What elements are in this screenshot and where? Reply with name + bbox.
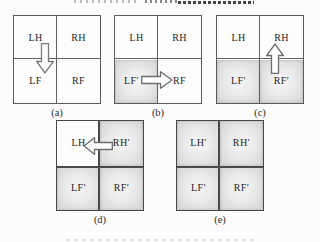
panel-e-square: LH′ RH′ LF′ RF′ [176, 120, 264, 211]
panel-b-square: LH RH LF′ RF [114, 15, 202, 104]
quadrant-label-rf: RF [173, 76, 186, 86]
quadrant-lh: LH [115, 16, 158, 60]
grid-vline [157, 16, 158, 103]
panel-b-caption: (b) [114, 107, 202, 118]
grid-hline [14, 58, 100, 59]
quadrant-label-lh: LH [231, 33, 245, 43]
quadrant-label-lf-prime: LF′ [124, 76, 139, 86]
quadrant-label-lf-prime: LF′ [191, 183, 206, 193]
panel-d: LH RH′ LF′ RF′ (d) [56, 120, 144, 225]
panel-e: LH′ RH′ LF′ RF′ (e) [176, 120, 264, 225]
panel-a-square: LH RH LF RF [13, 15, 101, 104]
panel-a: LH RH LF RF (a) [13, 15, 101, 118]
quadrant-label-rf: RF [72, 76, 85, 86]
quadrant-label-lh-prime: LH′ [190, 138, 207, 148]
up-arrow-icon [266, 43, 284, 74]
quadrant-label-rh: RH [71, 33, 86, 43]
grid-vline [259, 16, 260, 103]
quadrant-rf-prime: RF′ [100, 166, 143, 211]
down-arrow-icon [36, 43, 54, 74]
panel-a-caption: (a) [13, 107, 101, 118]
panel-d-square: LH RH′ LF′ RF′ [56, 120, 144, 211]
grid-hline [177, 166, 263, 168]
quadrant-label-rh-prime: RH′ [233, 138, 250, 148]
quadrant-lf-prime: LF′ [217, 60, 260, 104]
quadrant-rf-prime: RF′ [220, 166, 263, 211]
quadrant-rh: RH [57, 16, 100, 60]
quadrant-label-rf-prime: RF′ [274, 76, 290, 86]
panel-e-caption: (e) [176, 214, 264, 225]
grid-vline [56, 16, 57, 103]
quadrant-rh: RH [158, 16, 201, 60]
panel-d-caption: (d) [56, 214, 144, 225]
grid-hline [57, 166, 143, 168]
quadrant-label-rh: RH [274, 33, 289, 43]
clipped-text-bottom [66, 239, 256, 241]
panel-c-caption: (c) [216, 107, 304, 118]
panel-c-square: LH RH LF′ RF′ [216, 15, 304, 104]
quadrant-label-rf-prime: RF′ [234, 183, 250, 193]
quadrant-rh-prime: RH′ [220, 121, 263, 166]
clipped-text-top-left [74, 0, 136, 3]
left-arrow-icon [83, 137, 113, 155]
panel-b: LH RH LF′ RF (b) [114, 15, 202, 118]
clipped-text-top-mid [145, 0, 177, 3]
clipped-text-top-right [178, 1, 254, 4]
quadrant-label-lh: LH [28, 33, 42, 43]
quadrant-rf: RF [57, 60, 100, 104]
right-arrow-icon [141, 71, 173, 89]
grid-hline [115, 58, 201, 59]
quadrant-label-lf-prime: LF′ [71, 183, 86, 193]
quadrant-lh-prime: LH′ [177, 121, 220, 166]
quadrant-label-lh: LH [129, 33, 143, 43]
quadrant-label-lf-prime: LF′ [231, 76, 246, 86]
quadrant-label-rh: RH [172, 33, 187, 43]
quadrant-label-lf: LF [29, 76, 41, 86]
quadrant-label-rh-prime: RH′ [113, 138, 130, 148]
quadrant-lf-prime: LF′ [177, 166, 220, 211]
grid-hline [217, 58, 303, 59]
quadrant-lh: LH [217, 16, 260, 60]
quadrant-label-rf-prime: RF′ [114, 183, 130, 193]
quadrant-lf-prime: LF′ [57, 166, 100, 211]
panel-c: LH RH LF′ RF′ (c) [216, 15, 304, 118]
